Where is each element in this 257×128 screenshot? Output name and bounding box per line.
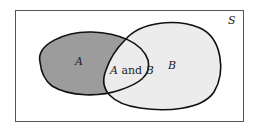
intersection-label-a: A (109, 64, 118, 77)
set-a-label: A (74, 55, 83, 68)
intersection-label-and: and (118, 64, 146, 77)
universe-label: S (228, 14, 236, 27)
intersection-label: A and B (109, 64, 154, 77)
venn-diagram: S A B A and B (0, 0, 257, 128)
intersection-label-b: B (145, 64, 154, 77)
set-b-label: B (167, 59, 176, 72)
